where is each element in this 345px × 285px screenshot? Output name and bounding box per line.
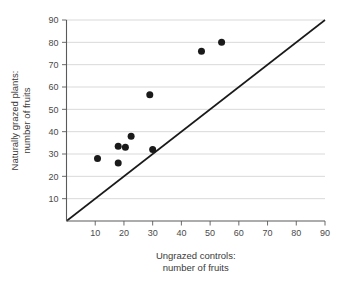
x-axis-title: Ungrazed controls: number of fruits	[156, 250, 236, 273]
x-axis-ticks: 102030405060708090	[90, 221, 330, 238]
data-points-group	[94, 39, 225, 167]
x-tick-label-50: 50	[205, 228, 215, 238]
x-tick-label-70: 70	[263, 228, 273, 238]
data-point	[115, 143, 122, 150]
data-point	[146, 91, 153, 98]
y-tick-label-10: 10	[48, 194, 58, 204]
y-axis-ticks: 102030405060708090	[48, 15, 66, 204]
y-tick-label-40: 40	[48, 127, 58, 137]
x-tick-label-80: 80	[291, 228, 301, 238]
y-tick-label-80: 80	[48, 38, 58, 48]
x-tick-label-90: 90	[320, 228, 330, 238]
y-tick-label-70: 70	[48, 60, 58, 70]
y-tick-label-50: 50	[48, 105, 58, 115]
data-point	[149, 146, 156, 153]
identity-reference-line	[67, 20, 326, 221]
identity-line	[67, 20, 326, 221]
x-axis-title-line2: number of fruits	[163, 262, 229, 273]
x-tick-label-60: 60	[234, 228, 244, 238]
data-point	[122, 144, 129, 151]
y-tick-label-60: 60	[48, 82, 58, 92]
gridlines-group	[67, 20, 326, 199]
y-axis-title-line1: Naturally grazed plants:	[9, 71, 20, 171]
x-tick-label-20: 20	[119, 228, 129, 238]
x-tick-label-10: 10	[90, 228, 100, 238]
x-axis-title-line1: Ungrazed controls:	[156, 250, 236, 261]
y-axis-title-line2: number of fruits	[21, 87, 32, 153]
y-tick-label-90: 90	[48, 15, 58, 25]
data-point	[198, 48, 205, 55]
x-tick-label-30: 30	[148, 228, 158, 238]
y-tick-label-20: 20	[48, 172, 58, 182]
scatter-plot-figure: 102030405060708090 102030405060708090 Un…	[0, 0, 345, 285]
plot-canvas: 102030405060708090 102030405060708090 Un…	[0, 0, 345, 285]
data-point	[94, 155, 101, 162]
y-tick-label-30: 30	[48, 149, 58, 159]
data-point	[128, 133, 135, 140]
x-tick-label-40: 40	[176, 228, 186, 238]
data-point	[115, 159, 122, 166]
y-axis-title: Naturally grazed plants: number of fruit…	[9, 71, 32, 171]
data-point	[218, 39, 225, 46]
